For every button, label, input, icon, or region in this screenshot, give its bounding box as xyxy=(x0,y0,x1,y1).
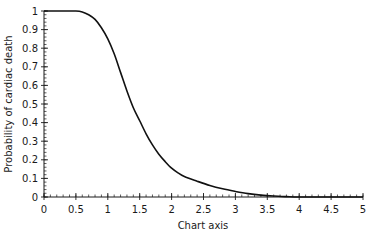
y-tick-label: 0.2 xyxy=(22,154,38,165)
y-tick-label: 0.3 xyxy=(22,136,38,147)
chart: 00.10.20.30.40.50.60.70.80.91 00.511.522… xyxy=(0,0,373,239)
y-axis-title: Probability of cardiac death xyxy=(3,35,14,172)
y-tick-label: 0.1 xyxy=(22,173,38,184)
probability-curve xyxy=(44,11,363,197)
x-tick-label: 2.5 xyxy=(196,204,212,215)
x-tick-label: 5 xyxy=(360,204,366,215)
x-tick-label: 3.5 xyxy=(259,204,275,215)
y-tick-label: 0.7 xyxy=(22,61,38,72)
y-tick-label: 0 xyxy=(32,192,38,203)
y-tick-label: 0.4 xyxy=(22,117,38,128)
x-tick-label: 3 xyxy=(232,204,238,215)
x-axis-title: Chart axis xyxy=(178,220,229,231)
x-tick-label: 0 xyxy=(41,204,47,215)
x-tick-label: 4 xyxy=(296,204,302,215)
x-tick-label: 1 xyxy=(105,204,111,215)
y-tick-label: 0.6 xyxy=(22,80,38,91)
x-tick-label: 0.5 xyxy=(68,204,84,215)
y-tick-label: 0.8 xyxy=(22,43,38,54)
x-tick-label: 4.5 xyxy=(323,204,339,215)
x-tick-label: 2 xyxy=(168,204,174,215)
x-tick-label: 1.5 xyxy=(132,204,148,215)
y-tick-label: 0.5 xyxy=(22,99,38,110)
y-tick-label: 0.9 xyxy=(22,24,38,35)
y-tick-label: 1 xyxy=(32,6,38,17)
